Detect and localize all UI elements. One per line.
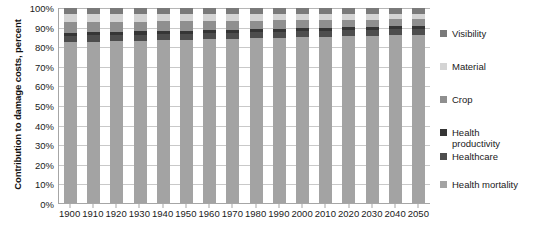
legend-item[interactable]: Visibility	[440, 28, 486, 39]
stacked-bar[interactable]	[389, 8, 402, 203]
y-axis-label: 90%	[18, 22, 54, 33]
bar-segment[interactable]	[180, 40, 193, 203]
legend-item[interactable]: Material	[440, 61, 486, 72]
legend-item[interactable]: Healthcare	[440, 151, 498, 162]
legend-swatch-icon	[440, 63, 447, 70]
bar-segment[interactable]	[180, 14, 193, 21]
x-axis-tick-labels: 1900191019201930194019501960197019801990…	[58, 208, 430, 224]
bar-column[interactable]	[407, 8, 430, 203]
bar-segment[interactable]	[342, 36, 355, 203]
legend-swatch-icon	[440, 30, 447, 37]
bar-segment[interactable]	[250, 21, 263, 29]
y-axis-label: 40%	[18, 120, 54, 131]
bar-segment[interactable]	[319, 37, 332, 203]
bar-segment[interactable]	[366, 20, 379, 27]
bar-segment[interactable]	[273, 38, 286, 203]
bar-segment[interactable]	[226, 21, 239, 30]
bar-column[interactable]	[198, 8, 221, 203]
bar-segment[interactable]	[157, 14, 170, 21]
bar-column[interactable]	[291, 8, 314, 203]
y-axis-label: 70%	[18, 61, 54, 72]
bar-segment[interactable]	[203, 21, 216, 30]
bar-segment[interactable]	[157, 40, 170, 203]
bar-column[interactable]	[82, 8, 105, 203]
stacked-bar[interactable]	[273, 8, 286, 203]
stacked-bar[interactable]	[319, 8, 332, 203]
bar-column[interactable]	[105, 8, 128, 203]
bar-column[interactable]	[384, 8, 407, 203]
stacked-bar[interactable]	[87, 8, 100, 203]
bar-segment[interactable]	[110, 22, 123, 32]
bar-segment[interactable]	[87, 14, 100, 22]
y-axis-label: 80%	[18, 42, 54, 53]
bar-segment[interactable]	[389, 19, 402, 26]
bar-segment[interactable]	[226, 14, 239, 21]
bar-segment[interactable]	[342, 20, 355, 27]
bar-column[interactable]	[221, 8, 244, 203]
y-axis-tick-labels: 0%10%20%30%40%50%60%70%80%90%100%	[18, 8, 54, 204]
bar-segment[interactable]	[296, 37, 309, 203]
bar-segment[interactable]	[110, 14, 123, 22]
bar-segment[interactable]	[412, 19, 425, 26]
plot-area	[58, 8, 430, 204]
bar-segment[interactable]	[64, 14, 77, 22]
stacked-bar[interactable]	[64, 8, 77, 203]
y-axis-label: 0%	[18, 199, 54, 210]
stacked-bar[interactable]	[226, 8, 239, 203]
stacked-bar[interactable]	[296, 8, 309, 203]
legend-item[interactable]: Crop	[440, 94, 473, 105]
legend-swatch-icon	[440, 181, 447, 188]
legend-swatch-icon	[440, 129, 447, 136]
bar-segment[interactable]	[273, 20, 286, 28]
bar-segment[interactable]	[87, 42, 100, 203]
bar-segment[interactable]	[296, 20, 309, 28]
y-axis-label: 20%	[18, 159, 54, 170]
bar-segment[interactable]	[134, 14, 147, 21]
bar-segment[interactable]	[157, 21, 170, 31]
stacked-bar[interactable]	[342, 8, 355, 203]
bar-column[interactable]	[59, 8, 82, 203]
bar-column[interactable]	[337, 8, 360, 203]
bar-column[interactable]	[129, 8, 152, 203]
legend-label: Visibility	[452, 28, 486, 39]
legend-label: Healthcare	[452, 151, 498, 162]
bar-column[interactable]	[175, 8, 198, 203]
bar-segment[interactable]	[203, 14, 216, 21]
y-axis-label: 10%	[18, 179, 54, 190]
bar-segment[interactable]	[64, 22, 77, 33]
stacked-bar[interactable]	[366, 8, 379, 203]
bar-segment[interactable]	[64, 42, 77, 203]
bar-column[interactable]	[314, 8, 337, 203]
bar-segment[interactable]	[226, 39, 239, 203]
stacked-bar[interactable]	[412, 8, 425, 203]
bar-segment[interactable]	[87, 22, 100, 32]
stacked-bar[interactable]	[134, 8, 147, 203]
legend-label: Material	[452, 61, 486, 72]
stacked-bar[interactable]	[203, 8, 216, 203]
bar-segment[interactable]	[203, 39, 216, 203]
bar-segment[interactable]	[180, 21, 193, 30]
stacked-bar[interactable]	[157, 8, 170, 203]
bar-segment[interactable]	[250, 38, 263, 203]
bar-column[interactable]	[360, 8, 383, 203]
bar-segment[interactable]	[134, 41, 147, 203]
bar-segment[interactable]	[389, 35, 402, 203]
y-axis-label: 100%	[18, 3, 54, 14]
legend-label: Crop	[452, 94, 473, 105]
stacked-bar[interactable]	[180, 8, 193, 203]
legend-item[interactable]: Health productivity	[440, 127, 500, 149]
bar-series-container	[59, 8, 430, 203]
bar-segment[interactable]	[134, 22, 147, 32]
stacked-bar[interactable]	[110, 8, 123, 203]
bar-segment[interactable]	[110, 41, 123, 203]
stacked-bar[interactable]	[250, 8, 263, 203]
bar-segment[interactable]	[412, 35, 425, 203]
bar-segment[interactable]	[319, 20, 332, 28]
bar-column[interactable]	[245, 8, 268, 203]
bar-segment[interactable]	[366, 36, 379, 203]
bar-column[interactable]	[152, 8, 175, 203]
bar-column[interactable]	[268, 8, 291, 203]
y-axis-label: 50%	[18, 101, 54, 112]
chart-root: Contribution to damage costs, percent 0%…	[0, 0, 535, 237]
legend-item[interactable]: Health mortality	[440, 179, 518, 190]
